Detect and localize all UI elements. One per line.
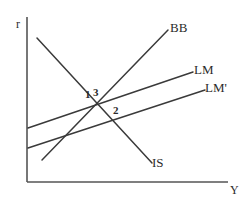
point-label-1: 1 — [85, 89, 91, 100]
point-label-3: 3 — [93, 87, 99, 98]
lm-prime-curve-label: LM' — [205, 81, 227, 94]
lm-curve — [28, 72, 193, 128]
diagram-canvas — [0, 0, 247, 211]
is-lm-bb-diagram: r Y BB LM LM' IS 1 3 2 — [0, 0, 247, 211]
x-axis-label: Y — [230, 184, 239, 196]
bb-curve — [42, 30, 168, 160]
is-curve — [37, 38, 152, 163]
lm-curve-label: LM — [194, 63, 214, 76]
bb-curve-label: BB — [170, 21, 187, 34]
is-curve-label: IS — [152, 156, 164, 169]
point-label-2: 2 — [113, 105, 119, 116]
y-axis-label: r — [16, 18, 20, 30]
